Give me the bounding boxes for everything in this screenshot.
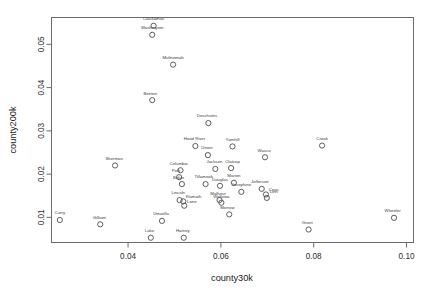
data-point-label: Multnomah — [162, 55, 184, 60]
data-point-label: Umatilla — [153, 211, 169, 216]
data-point-label: Jefferson — [251, 179, 269, 184]
data-point-label: Gilliam — [93, 215, 107, 220]
y-tick-label: 0.02 — [37, 166, 46, 182]
data-point-label: Clatsop — [225, 159, 240, 164]
data-point — [229, 165, 234, 170]
data-point — [181, 235, 186, 240]
data-point-label: Sherman — [105, 156, 123, 161]
y-tick-label: 0.04 — [37, 79, 46, 95]
data-point-label: Washington — [141, 25, 164, 30]
data-point-label: Hood River — [184, 136, 206, 141]
data-point-label: Douglas — [212, 177, 228, 182]
data-point — [98, 222, 103, 227]
data-point — [205, 153, 210, 158]
data-point — [159, 218, 164, 223]
data-point-label: Morrow — [220, 205, 235, 210]
data-point — [170, 62, 175, 67]
data-point — [227, 212, 232, 217]
data-point-label: Clackamas — [143, 16, 164, 21]
x-tick-label: 0.10 — [399, 252, 415, 261]
data-point — [193, 143, 198, 148]
data-point-labels-layer: ClackamasWashingtonMultnomahBentonDeschu… — [55, 16, 402, 233]
data-point-label: Wheeler — [385, 208, 402, 213]
data-point-label: Wallowa — [213, 194, 230, 199]
data-point — [259, 186, 264, 191]
data-point-label: Union — [201, 145, 213, 150]
data-point — [230, 144, 235, 149]
y-tick-label: 0.01 — [37, 209, 46, 225]
data-point — [264, 195, 269, 200]
data-point-label: Jackson — [207, 159, 223, 164]
y-axis-title: county200k — [8, 106, 18, 153]
x-axis-ticks: 0.040.060.080.10 — [120, 243, 415, 261]
data-point — [179, 181, 184, 186]
data-point-label: Linn — [270, 189, 279, 194]
data-point — [150, 32, 155, 37]
x-axis-title: county30k — [211, 273, 253, 283]
data-point — [57, 217, 62, 222]
data-point-label: Wasco — [258, 148, 272, 153]
scatter-plot-figure: 0.040.060.080.10 0.010.020.030.040.05 Cl… — [0, 0, 437, 292]
data-point-label: Lane — [187, 199, 197, 204]
data-point — [217, 183, 222, 188]
data-point-label: Curry — [55, 210, 66, 215]
data-point — [391, 215, 396, 220]
x-tick-label: 0.04 — [120, 252, 136, 261]
data-point — [319, 143, 324, 148]
y-tick-label: 0.03 — [37, 122, 46, 138]
data-point — [148, 235, 153, 240]
data-point-label: Baker — [173, 175, 185, 180]
y-tick-label: 0.05 — [37, 36, 46, 52]
data-point-label: Harney — [176, 228, 191, 233]
data-point-label: Benton — [144, 91, 158, 96]
data-point-label: Columbia — [170, 161, 189, 166]
data-point — [306, 227, 311, 232]
data-point — [262, 155, 267, 160]
y-axis-ticks: 0.010.020.030.040.05 — [37, 36, 52, 225]
data-point — [206, 120, 211, 125]
x-tick-label: 0.06 — [213, 252, 229, 261]
data-point-label: Deschutes — [197, 113, 217, 118]
data-point-label: Marion — [227, 173, 241, 178]
x-tick-label: 0.08 — [306, 252, 322, 261]
data-point-label: Crook — [316, 136, 328, 141]
data-point-label: Josephine — [232, 182, 252, 187]
data-point-label: Tillamook — [195, 174, 214, 179]
data-point-label: Polk — [172, 168, 181, 173]
data-point-label: Grant — [302, 220, 314, 225]
data-point — [150, 98, 155, 103]
plot-canvas: 0.040.060.080.10 0.010.020.030.040.05 Cl… — [0, 0, 437, 292]
data-point — [112, 163, 117, 168]
data-point-label: Yamhill — [226, 137, 240, 142]
data-point — [263, 192, 268, 197]
data-point — [239, 189, 244, 194]
data-point — [203, 181, 208, 186]
data-point-label: Lake — [145, 228, 155, 233]
data-point — [213, 166, 218, 171]
data-point-label: Lincoln — [171, 190, 185, 195]
